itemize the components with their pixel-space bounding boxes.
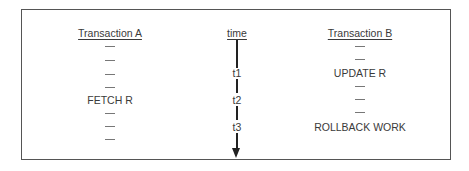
timeline-segment xyxy=(236,106,238,120)
timeline-segment xyxy=(236,79,238,93)
transaction-a-step xyxy=(60,54,160,61)
transaction-a-step xyxy=(60,107,160,114)
transaction-a-step xyxy=(60,133,160,140)
timeline-segment xyxy=(236,40,238,68)
time-header: time xyxy=(222,27,252,39)
arrow-down-icon xyxy=(232,148,240,158)
timeline-segment xyxy=(236,133,238,149)
transaction-a-step xyxy=(60,68,160,75)
time-label-t3: t3 xyxy=(222,121,252,133)
transaction-a-step xyxy=(60,81,160,88)
transaction-a-step xyxy=(60,120,160,127)
transaction-b-header: Transaction B xyxy=(300,27,420,39)
transaction-a-fetch: FETCH R xyxy=(60,94,160,106)
time-label-t2: t2 xyxy=(222,94,252,106)
transaction-b-step xyxy=(300,93,420,100)
transaction-b-step xyxy=(300,80,420,87)
transaction-b-rollback: ROLLBACK WORK xyxy=(300,121,420,133)
transaction-a-step xyxy=(60,40,160,47)
transaction-a-header: Transaction A xyxy=(60,27,160,39)
time-label-t1: t1 xyxy=(222,67,252,79)
transaction-b-update: UPDATE R xyxy=(300,67,420,79)
transaction-b-step xyxy=(300,106,420,113)
transaction-b-step xyxy=(300,40,420,47)
transaction-b-step xyxy=(300,53,420,60)
